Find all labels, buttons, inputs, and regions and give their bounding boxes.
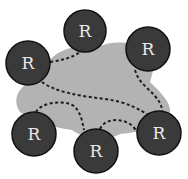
router-r3[interactable]: R xyxy=(6,41,50,85)
network-diagram: R R R R R R xyxy=(0,0,188,179)
router-r1[interactable]: R xyxy=(64,10,106,52)
router-label: R xyxy=(153,123,167,143)
router-r5[interactable]: R xyxy=(74,129,118,173)
router-label: R xyxy=(28,124,42,144)
router-r4[interactable]: R xyxy=(12,112,56,156)
router-label: R xyxy=(79,21,93,41)
router-label: R xyxy=(22,53,36,73)
router-label: R xyxy=(142,39,156,59)
router-r6[interactable]: R xyxy=(137,111,181,155)
router-r2[interactable]: R xyxy=(126,27,170,71)
router-label: R xyxy=(90,141,104,161)
